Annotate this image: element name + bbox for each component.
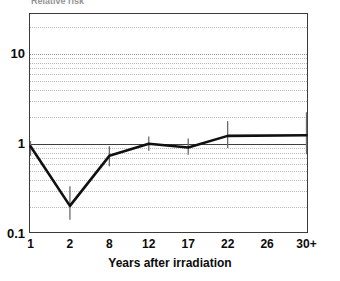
chart-figure: Relative risk 1010.1 1281217222630+ Year… [0,0,340,281]
series-line-relative-risk [31,135,307,206]
x-axis-title: Years after irradiation [108,256,231,270]
data-series-layer [0,0,340,281]
